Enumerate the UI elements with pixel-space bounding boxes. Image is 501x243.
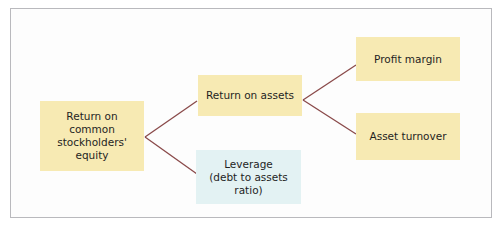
node-roe-line-1: Return on [57,110,127,123]
node-roa-label: Return on assets [206,89,294,102]
node-asset-turnover: Asset turnover [356,113,460,160]
node-leverage-line-2: (debt to assets ratio) [200,171,297,197]
node-return-on-assets: Return on assets [198,75,302,116]
node-roe-line-2: common [57,123,127,136]
node-leverage: Leverage (debt to assets ratio) [196,150,301,204]
node-profit-margin: Profit margin [356,37,460,81]
node-roe-line-3: stockholders' [57,136,127,149]
node-asset-turnover-label: Asset turnover [369,130,446,143]
node-leverage-line-1: Leverage [200,158,297,171]
node-roe-line-4: equity [57,149,127,162]
node-profit-margin-label: Profit margin [374,53,442,66]
node-return-on-common-stockholders-equity: Return on common stockholders' equity [40,101,144,171]
